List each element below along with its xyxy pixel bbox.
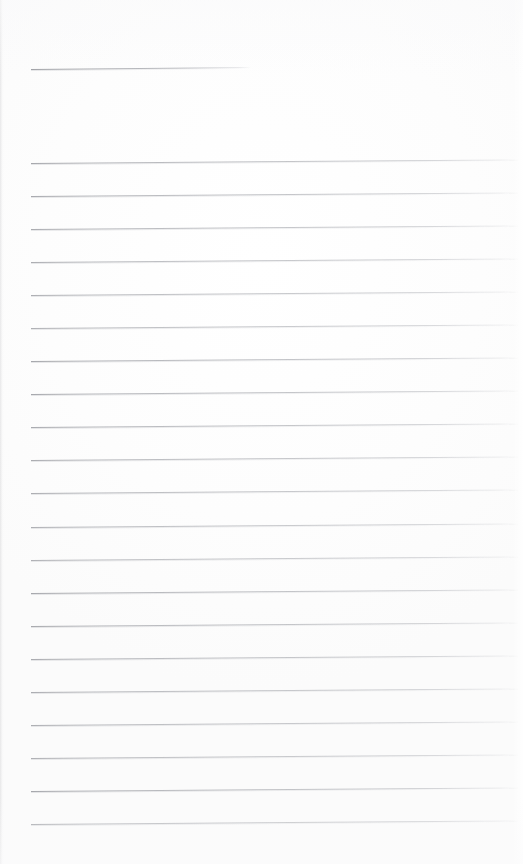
ruled-line	[31, 589, 519, 594]
ruled-line	[31, 324, 519, 329]
ruled-line	[31, 556, 519, 561]
ruled-line	[31, 787, 519, 792]
ruled-line	[31, 192, 519, 197]
ruled-line	[31, 390, 519, 395]
scan-edge-left	[0, 0, 4, 864]
ruled-line	[31, 655, 519, 660]
ruled-line	[31, 489, 519, 494]
ruled-line	[31, 523, 519, 528]
ruled-line	[31, 820, 519, 825]
header-rule	[31, 67, 251, 70]
writing-area	[0, 0, 523, 864]
scan-edge-right	[513, 0, 523, 864]
ruled-line	[31, 159, 519, 164]
ruled-line	[31, 754, 519, 759]
ruled-line	[31, 357, 519, 362]
ruled-line	[31, 721, 519, 726]
ruled-line	[31, 622, 519, 627]
ruled-line	[31, 225, 519, 230]
ruled-line	[31, 291, 519, 296]
ruled-line	[31, 423, 519, 428]
ruled-line	[31, 688, 519, 693]
scanned-page	[0, 0, 523, 864]
paper-texture-overlay	[0, 0, 523, 864]
ruled-line	[31, 456, 519, 461]
ruled-line	[31, 258, 519, 263]
